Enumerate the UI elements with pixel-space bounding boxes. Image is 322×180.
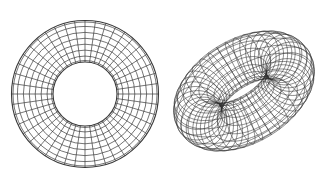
- torus-wireframe-figure: [0, 0, 322, 180]
- meridian-line: [258, 82, 295, 117]
- meridian-line: [192, 65, 229, 100]
- figure-canvas: [0, 0, 322, 180]
- torus-grid: [174, 31, 315, 151]
